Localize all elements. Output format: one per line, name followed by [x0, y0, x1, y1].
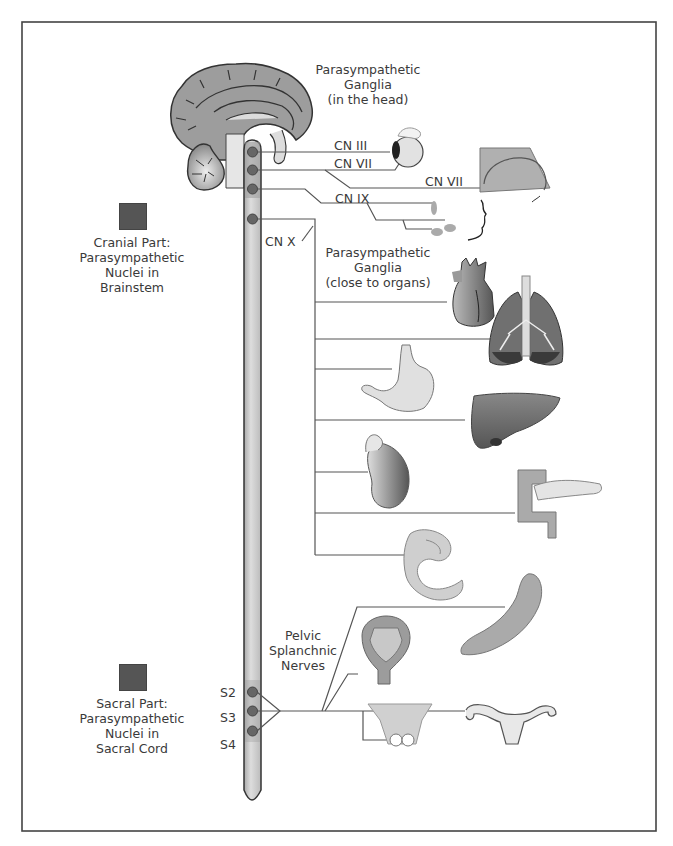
cn10-label: CN X	[265, 234, 296, 249]
nucleus-cn10	[248, 214, 258, 224]
salivary-glands-illustration	[431, 201, 456, 236]
ganglia-organs-line2: Ganglia	[318, 260, 438, 275]
cranial-legend-swatch	[119, 203, 147, 230]
ganglia-organs-line3: (close to organs)	[318, 275, 438, 290]
cn9-label: CN IX	[335, 191, 369, 206]
sacral-legend-line3: Nuclei in	[72, 726, 192, 741]
pelvic-splanchnic-label: Pelvic Splanchnic Nerves	[268, 628, 338, 673]
spinal-cord	[244, 140, 261, 800]
ganglia-head-line3: (in the head)	[308, 92, 428, 107]
eye-illustration	[392, 128, 423, 167]
cranial-legend-line3: Nuclei in	[72, 265, 192, 280]
sacral-legend-swatch	[119, 664, 147, 691]
brain-illustration	[171, 63, 313, 190]
stomach-illustration	[362, 345, 434, 411]
nucleus-cn9	[248, 184, 258, 194]
colon-illustration	[461, 574, 542, 655]
sacral-legend-line4: Sacral Cord	[72, 741, 192, 756]
liver-illustration	[472, 393, 560, 448]
cranial-legend-label: Cranial Part: Parasympathetic Nuclei in …	[72, 235, 192, 295]
nucleus-cn7	[248, 165, 258, 175]
ganglia-organs-label: Parasympathetic Ganglia (close to organs…	[318, 245, 438, 290]
parasympathetic-diagram: Parasympathetic Ganglia (in the head) CN…	[0, 0, 673, 846]
uterus-illustration	[466, 705, 556, 744]
small-intestine-illustration	[404, 530, 463, 600]
ganglia-head-line2: Ganglia	[308, 77, 428, 92]
cranial-legend-line4: Brainstem	[72, 280, 192, 295]
cn7-eye-label: CN VII	[334, 156, 372, 171]
s2-label: S2	[220, 685, 236, 700]
s4-label: S4	[220, 737, 236, 752]
pelvic-line2: Splanchnic	[268, 643, 338, 658]
nucleus-s2	[248, 687, 258, 697]
nasal-cavity-illustration	[468, 148, 550, 240]
pelvic-line3: Nerves	[268, 658, 338, 673]
pelvic-line1: Pelvic	[268, 628, 338, 643]
cn3-label: CN III	[334, 138, 367, 153]
cranial-legend-line1: Cranial Part:	[72, 235, 192, 250]
nucleus-cn3	[248, 147, 258, 157]
pancreas-illustration	[518, 470, 602, 538]
kidney-illustration	[366, 435, 409, 508]
sacral-legend-line2: Parasympathetic	[72, 711, 192, 726]
ganglia-organs-line1: Parasympathetic	[318, 245, 438, 260]
sacral-legend-line1: Sacral Part:	[72, 696, 192, 711]
ganglia-head-label: Parasympathetic Ganglia (in the head)	[308, 62, 428, 107]
bladder-illustration	[362, 616, 410, 684]
sacral-legend-label: Sacral Part: Parasympathetic Nuclei in S…	[72, 696, 192, 756]
heart-illustration	[452, 258, 494, 326]
lungs-illustration	[489, 276, 563, 365]
s3-label: S3	[220, 710, 236, 725]
nucleus-s4	[248, 726, 258, 736]
ganglia-head-line1: Parasympathetic	[308, 62, 428, 77]
cn7-nose-label: CN VII	[425, 174, 463, 189]
nucleus-s3	[248, 706, 258, 716]
cranial-legend-line2: Parasympathetic	[72, 250, 192, 265]
